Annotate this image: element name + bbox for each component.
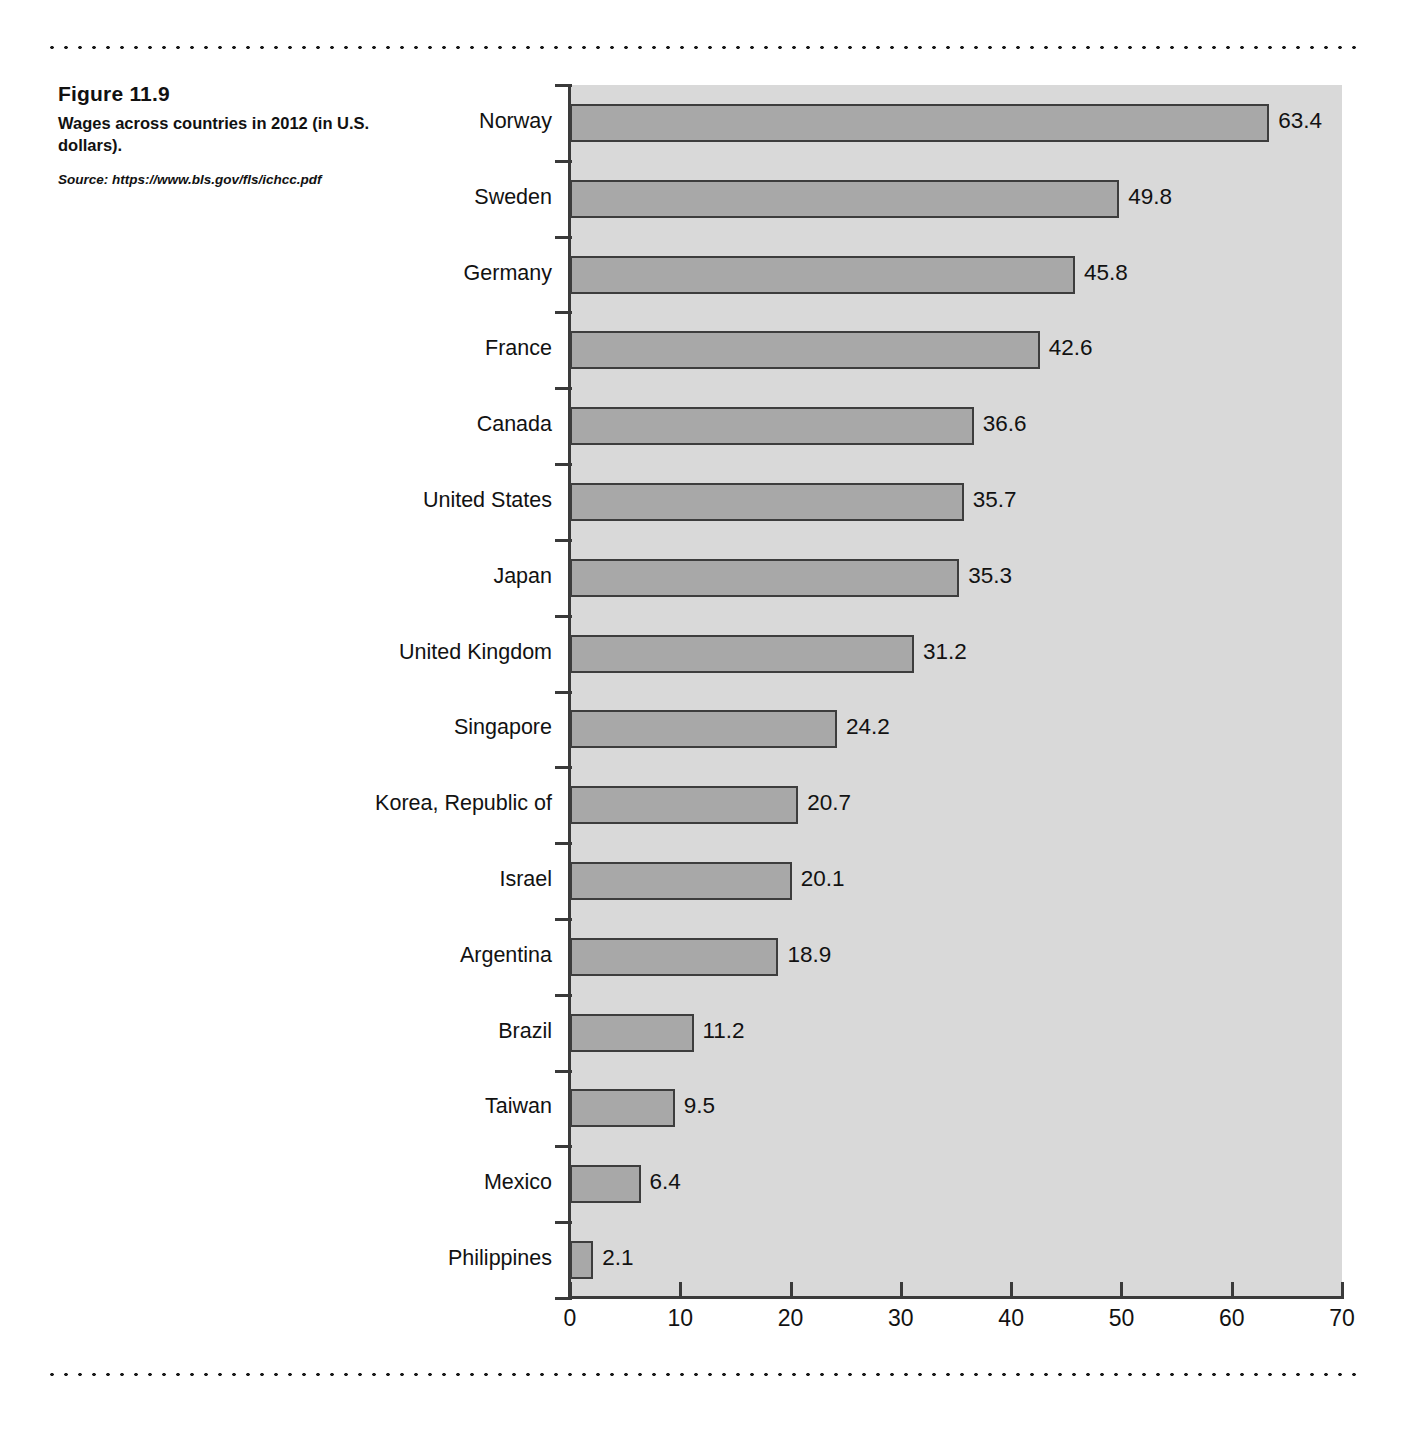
category-label: Argentina [152, 943, 552, 968]
y-axis-tick [555, 463, 572, 466]
bar [570, 635, 914, 673]
bar [570, 786, 798, 824]
x-axis-tick [1231, 1282, 1234, 1297]
category-label: Israel [152, 867, 552, 892]
bar [570, 180, 1119, 218]
bar-value-label: 42.6 [1049, 335, 1093, 361]
bar [570, 407, 974, 445]
category-label: Taiwan [152, 1094, 552, 1119]
x-axis-tick-label: 10 [640, 1305, 720, 1332]
bar-value-label: 36.6 [983, 411, 1027, 437]
category-label: Singapore [152, 715, 552, 740]
bar [570, 1089, 675, 1127]
bar-value-label: 63.4 [1278, 108, 1322, 134]
x-axis-tick-label: 40 [971, 1305, 1051, 1332]
category-label: Mexico [152, 1170, 552, 1195]
x-axis-tick [1010, 1282, 1013, 1297]
y-axis-tick [555, 1221, 572, 1224]
category-label: Korea, Republic of [152, 791, 552, 816]
bar [570, 1014, 694, 1052]
bar-value-label: 35.3 [968, 563, 1012, 589]
bar-chart: Norway63.4Sweden49.8Germany45.8France42.… [0, 0, 1406, 1432]
category-label: Sweden [152, 185, 552, 210]
x-axis-tick-label: 50 [1081, 1305, 1161, 1332]
y-axis-tick [555, 766, 572, 769]
bar [570, 938, 778, 976]
bar-value-label: 20.7 [807, 790, 851, 816]
y-axis-tick [555, 615, 572, 618]
x-axis-tick [1341, 1282, 1344, 1297]
y-axis-tick [555, 84, 572, 87]
y-axis-tick [555, 1297, 572, 1300]
bar-value-label: 31.2 [923, 639, 967, 665]
y-axis-tick [555, 691, 572, 694]
bar-value-label: 2.1 [602, 1245, 633, 1271]
bar [570, 710, 837, 748]
bar-value-label: 11.2 [703, 1018, 745, 1044]
bar-value-label: 9.5 [684, 1093, 715, 1119]
x-axis-tick-label: 0 [530, 1305, 610, 1332]
bar-value-label: 49.8 [1128, 184, 1172, 210]
bar [570, 331, 1040, 369]
category-label: Brazil [152, 1019, 552, 1044]
category-label: Japan [152, 564, 552, 589]
y-axis-tick [555, 311, 572, 314]
bar-value-label: 24.2 [846, 714, 890, 740]
bar [570, 104, 1269, 142]
y-axis-tick [555, 160, 572, 163]
x-axis-tick-label: 60 [1192, 1305, 1272, 1332]
category-label: France [152, 336, 552, 361]
bar-value-label: 45.8 [1084, 260, 1128, 286]
bar [570, 862, 792, 900]
category-label: Canada [152, 412, 552, 437]
x-axis-tick-label: 70 [1302, 1305, 1382, 1332]
bar-value-label: 18.9 [787, 942, 831, 968]
y-axis-tick [555, 842, 572, 845]
bar [570, 1165, 641, 1203]
y-axis-tick [555, 387, 572, 390]
x-axis-tick [1120, 1282, 1123, 1297]
category-label: Philippines [152, 1246, 552, 1271]
bar [570, 256, 1075, 294]
x-axis-line [568, 1296, 1344, 1299]
y-axis-tick [555, 918, 572, 921]
y-axis-tick [555, 236, 572, 239]
x-axis-tick-label: 30 [861, 1305, 941, 1332]
y-axis-tick [555, 1070, 572, 1073]
x-axis-tick [679, 1282, 682, 1297]
y-axis-tick [555, 1145, 572, 1148]
category-label: Germany [152, 261, 552, 286]
bar [570, 559, 959, 597]
category-label: United States [152, 488, 552, 513]
category-label: United Kingdom [152, 640, 552, 665]
x-axis-tick [900, 1282, 903, 1297]
x-axis-tick [790, 1282, 793, 1297]
bar [570, 1241, 593, 1279]
y-axis-tick [555, 994, 572, 997]
bar-value-label: 6.4 [650, 1169, 681, 1195]
bar-value-label: 35.7 [973, 487, 1017, 513]
x-axis-tick-label: 20 [751, 1305, 831, 1332]
category-label: Norway [152, 109, 552, 134]
x-axis-tick [569, 1282, 572, 1297]
y-axis-tick [555, 539, 572, 542]
bar-value-label: 20.1 [801, 866, 845, 892]
bar [570, 483, 964, 521]
